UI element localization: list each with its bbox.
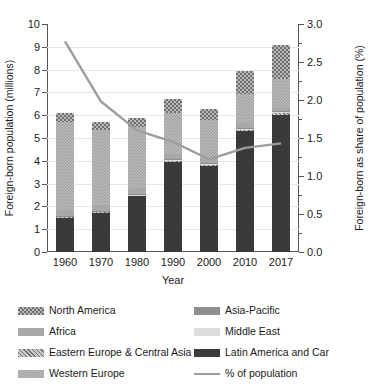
y-axis-right-tick	[299, 176, 304, 177]
legend-item-label: Middle East	[225, 326, 280, 337]
y-axis-left-tick-label: 0	[34, 246, 40, 258]
legend-item-label: Asia-Pacific	[225, 305, 280, 316]
legend-swatch	[18, 307, 44, 315]
legend-item-latin-america-and-car[interactable]: Latin America and Car	[194, 347, 363, 358]
y-axis-left-tick-label: 6	[34, 109, 40, 121]
y-axis-left-tick-label: 8	[34, 64, 40, 76]
legend-item-label: % of population	[225, 368, 297, 379]
legend-swatch	[194, 349, 220, 357]
y-axis-right-tick-label: 2.0	[307, 94, 322, 106]
legend-item-north-america[interactable]: North America	[18, 305, 194, 316]
x-axis-tick-label: 2017	[269, 256, 293, 268]
x-axis-tick-label: 1990	[161, 256, 185, 268]
y-axis-left-tick-label: 4	[34, 155, 40, 167]
y-axis-right-minor-tick	[299, 43, 302, 44]
plot-area: 012345678910 0.00.51.01.52.02.53.0	[47, 24, 299, 252]
y-axis-right-tick-label: 1.0	[307, 170, 322, 182]
y-axis-right-tick	[299, 62, 304, 63]
y-axis-left-tick-label: 9	[34, 41, 40, 53]
x-axis-tick-label: 1970	[89, 256, 113, 268]
legend-item-label: Eastern Europe & Central Asia	[49, 347, 191, 358]
y-axis-left-tick-label: 3	[34, 178, 40, 190]
line-percent-of-population	[65, 41, 281, 159]
x-axis-tick-label: 1980	[125, 256, 149, 268]
y-axis-left-title-text: Foreign-born population (millions)	[3, 60, 15, 216]
y-axis-left-tick-label: 2	[34, 200, 40, 212]
y-axis-right-minor-tick	[299, 119, 302, 120]
legend-item-of-population[interactable]: % of population	[194, 368, 363, 379]
y-axis-left-tick-label: 1	[34, 223, 40, 235]
y-axis-right-title: Foreign-born as share of population (%)	[352, 24, 366, 252]
legend-item-western-europe[interactable]: Western Europe	[18, 368, 194, 379]
y-axis-right-tick	[299, 252, 304, 253]
y-axis-right-tick	[299, 24, 304, 25]
legend-item-africa[interactable]: Africa	[18, 326, 194, 337]
y-axis-right-minor-tick	[299, 233, 302, 234]
legend-item-label: Africa	[49, 326, 76, 337]
y-axis-right-tick	[299, 214, 304, 215]
x-axis-title: Year	[47, 274, 299, 286]
y-axis-right-tick-label: 1.5	[307, 132, 322, 144]
y-axis-right-minor-tick	[299, 195, 302, 196]
legend-swatch	[18, 328, 44, 336]
y-axis-left-tick	[42, 252, 47, 253]
y-axis-left-tick-label: 5	[34, 132, 40, 144]
y-axis-right-minor-tick	[299, 81, 302, 82]
legend-item-label: North America	[49, 305, 116, 316]
legend-item-asia-pacific[interactable]: Asia-Pacific	[194, 305, 363, 316]
line-series-layer	[47, 24, 299, 252]
legend-swatch	[194, 307, 220, 315]
y-axis-right-minor-tick	[299, 157, 302, 158]
y-axis-right-tick-label: 3.0	[307, 18, 322, 30]
legend-swatch	[18, 370, 44, 378]
legend-swatch	[18, 349, 44, 357]
y-axis-left-tick-label: 10	[28, 18, 40, 30]
x-axis-tick-label: 2000	[197, 256, 221, 268]
legend-item-middle-east[interactable]: Middle East	[194, 326, 363, 337]
y-axis-right-tick	[299, 138, 304, 139]
chart-container: Foreign-born population (millions) Forei…	[0, 0, 373, 388]
x-axis-tick-label: 1960	[53, 256, 77, 268]
y-axis-right-tick-label: 2.5	[307, 56, 322, 68]
legend-item-eastern-europe-central-asia[interactable]: Eastern Europe & Central Asia	[18, 347, 194, 358]
legend-swatch-line	[194, 370, 220, 378]
legend-item-label: Western Europe	[49, 368, 125, 379]
y-axis-right-title-text: Foreign-born as share of population (%)	[353, 45, 365, 231]
chart-legend: North AmericaAsia-PacificAfricaMiddle Ea…	[18, 300, 363, 384]
y-axis-right-tick-label: 0.0	[307, 246, 322, 258]
y-axis-left-title: Foreign-born population (millions)	[2, 24, 16, 252]
legend-item-label: Latin America and Car	[225, 347, 329, 358]
x-axis-tick-label: 2010	[233, 256, 257, 268]
y-axis-right-tick-label: 0.5	[307, 208, 322, 220]
y-axis-left-tick-label: 7	[34, 86, 40, 98]
legend-swatch	[194, 328, 220, 336]
y-axis-right-tick	[299, 100, 304, 101]
